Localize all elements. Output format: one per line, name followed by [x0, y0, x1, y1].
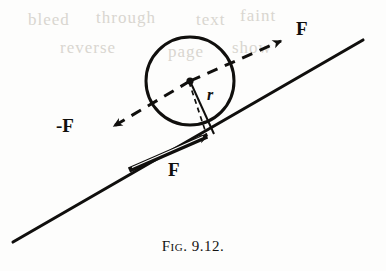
label-reaction-force-minus-f: -F — [56, 115, 74, 137]
figure-caption: Fig. 9.12. — [0, 238, 386, 255]
figure-container: bleed through text faint reverse page sh… — [0, 0, 386, 271]
applied-force-dashed-line-upper — [190, 41, 281, 81]
incline-line — [13, 40, 363, 242]
label-friction-force-f: F — [168, 159, 180, 181]
caption-prefix: Fig. — [162, 238, 188, 254]
radius-dashed-line — [189, 82, 207, 136]
label-applied-force-f: F — [296, 18, 308, 40]
caption-number: 9.12. — [192, 238, 225, 254]
label-radius-r: r — [207, 86, 213, 104]
reaction-force-dashed-line-lower — [114, 81, 190, 126]
